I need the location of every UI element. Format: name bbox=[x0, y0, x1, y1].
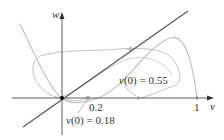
v-axis-label: v bbox=[210, 101, 215, 112]
fixed-point bbox=[60, 96, 64, 100]
tick-label-1: 1 bbox=[194, 102, 200, 113]
annotation-v0-0.18: v(0) = 0.18 bbox=[66, 115, 115, 126]
cubic-nullcline bbox=[20, 24, 197, 103]
trajectory-small bbox=[66, 98, 86, 101]
annotation-eq: (0) = 0.18 bbox=[71, 114, 115, 126]
annotation-eq: (0) = 0.55 bbox=[124, 74, 168, 86]
w-axis-label: w bbox=[52, 9, 59, 20]
tick-label-0.2: 0.2 bbox=[89, 102, 103, 113]
leader-large bbox=[124, 86, 136, 96]
w-axis-arrow-icon bbox=[60, 12, 65, 19]
linear-nullcline bbox=[23, 11, 188, 127]
annotation-v0-0.55: v(0) = 0.55 bbox=[119, 75, 168, 86]
